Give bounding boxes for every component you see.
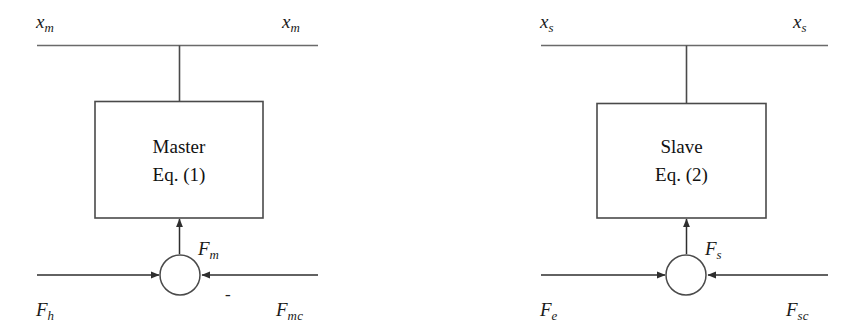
slave-block-title: Slave: [597, 133, 766, 161]
master-block-label: Master Eq. (1): [95, 133, 263, 188]
label-human-force: Fh: [36, 300, 54, 323]
label-slave-position-left: xs: [540, 12, 554, 35]
master-summing-junction: [160, 255, 200, 295]
master-summing-minus-sign: -: [225, 286, 231, 303]
label-slave-control-force: Fsc: [786, 300, 809, 323]
master-block-equation: Eq. (1): [95, 161, 263, 189]
slave-summing-junction: [666, 255, 706, 295]
label-slave-position-right: xs: [793, 12, 807, 35]
label-master-position-right: xm: [282, 12, 300, 35]
figure-canvas: xm xm Master Eq. (1) Fm Fh - Fmc xs xs S…: [0, 0, 853, 336]
master-block-title: Master: [95, 133, 263, 161]
label-master-control-force: Fmc: [276, 300, 303, 323]
label-slave-force-output: Fs: [705, 239, 722, 262]
slave-block-label: Slave Eq. (2): [597, 133, 766, 188]
label-master-position-left: xm: [36, 12, 54, 35]
slave-block-equation: Eq. (2): [597, 161, 766, 189]
label-master-force-output: Fm: [198, 239, 219, 262]
label-environment-force: Fe: [540, 300, 558, 323]
